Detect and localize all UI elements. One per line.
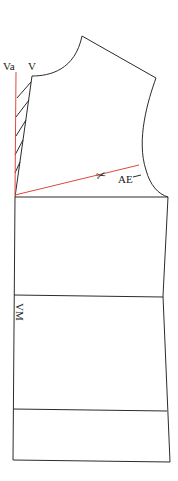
label-va: Va [3, 60, 15, 72]
label-v: V [28, 60, 36, 72]
label-vm: VM [14, 303, 26, 321]
hatch-lines [15, 82, 31, 173]
lower-body-outline [13, 197, 170, 462]
pattern-diagram: Va V AE VM ✂ [0, 0, 178, 481]
label-ae: AE [118, 173, 133, 185]
hip-line [13, 409, 167, 411]
red-vertical-line [15, 72, 16, 195]
scissors-icon: ✂ [94, 167, 107, 183]
bodice-outline [15, 36, 168, 197]
waist-line [14, 295, 163, 297]
ae-tick [133, 175, 141, 177]
